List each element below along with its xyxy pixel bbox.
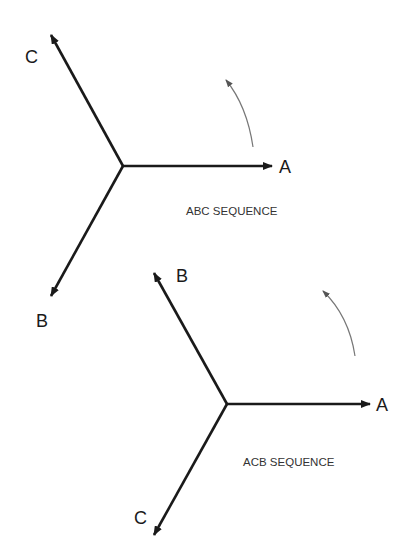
phasor-a-label: A xyxy=(376,395,388,415)
rotation-arrow-icon xyxy=(226,80,253,147)
phasor-c-label: C xyxy=(25,47,38,67)
acb-phasor-diagram: A B C ACB SEQUENCE xyxy=(134,266,388,535)
phasor-a-label: A xyxy=(279,157,291,177)
abc-sequence-title: ABC SEQUENCE xyxy=(186,205,278,217)
abc-phasor-diagram: A C B ABC SEQUENCE xyxy=(25,35,291,331)
phase-sequence-diagram: A C B ABC SEQUENCE A B C ACB SEQUENCE xyxy=(0,0,419,558)
phasor-c-arrow xyxy=(51,35,123,166)
phasor-b-arrow xyxy=(154,273,227,404)
phasor-c-label: C xyxy=(134,508,147,528)
rotation-arrow-icon xyxy=(323,291,355,356)
phasor-b-label: B xyxy=(176,266,188,286)
phasor-b-label: B xyxy=(36,311,48,331)
acb-sequence-title: ACB SEQUENCE xyxy=(243,456,335,468)
phasor-b-arrow xyxy=(51,166,123,296)
phasor-c-arrow xyxy=(154,404,227,535)
